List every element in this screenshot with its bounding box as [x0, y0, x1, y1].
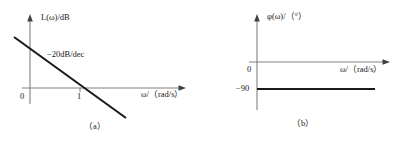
y-axis-arrowhead: [254, 14, 260, 22]
slope-annotation: −20dB/dec: [47, 50, 84, 59]
magnitude-plot-panel: L(ω)/dB ω/（rad/s） 0 1 −20dB/dec （a）: [0, 0, 208, 141]
x-tick-label-0: 0: [20, 92, 24, 101]
x-axis-arrowhead: [383, 59, 391, 65]
y-axis-arrowhead: [27, 14, 33, 22]
x-tick-label-1: 1: [77, 92, 81, 101]
y-axis-label: L(ω)/dB: [41, 13, 70, 22]
x-axis-label: ω/（rad/s）: [340, 65, 382, 74]
bode-plot-figure: L(ω)/dB ω/（rad/s） 0 1 −20dB/dec （a） φ(ω)…: [0, 0, 416, 141]
y-tick-label-0: 0: [247, 65, 251, 74]
panel-caption-b: （b）: [292, 116, 314, 128]
x-axis-label: ω/（rad/s）: [141, 90, 183, 99]
y-tick-label-minus-90: −90: [236, 84, 249, 93]
y-axis-label: φ(ω)/（°）: [267, 12, 307, 21]
phase-plot-panel: φ(ω)/（°） ω/（rad/s） 0 −90 （b）: [208, 0, 416, 141]
panel-caption-a: （a）: [84, 119, 106, 131]
